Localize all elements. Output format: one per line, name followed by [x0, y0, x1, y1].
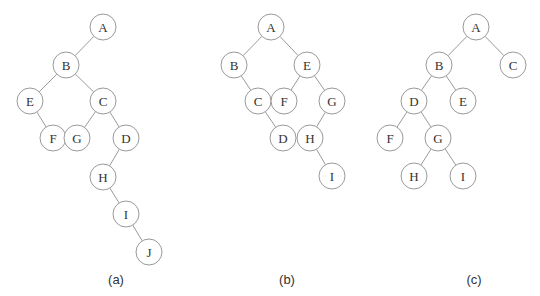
edge-B-C [75, 74, 93, 92]
edge-E-G [314, 76, 324, 91]
node-label: J [146, 245, 151, 260]
edge-D-G [421, 112, 431, 127]
node-label: H [98, 170, 107, 185]
edge-A-C [485, 36, 504, 55]
node-G: G [64, 125, 90, 151]
node-E: E [17, 88, 43, 114]
node-label: A [98, 20, 108, 35]
node-J: J [136, 239, 162, 265]
node-D: D [401, 88, 427, 114]
node-C: C [500, 52, 526, 78]
node-E: E [450, 88, 476, 114]
edge-G-I [445, 149, 456, 165]
node-H: H [90, 164, 116, 190]
node-label: I [124, 207, 128, 222]
node-label: H [409, 169, 418, 184]
edge-A-B [243, 36, 262, 55]
node-label: E [303, 58, 311, 73]
node-label: F [280, 94, 287, 109]
node-label: B [230, 58, 239, 73]
node-H: H [297, 125, 323, 151]
tree-caption: (b) [279, 272, 295, 287]
node-G: G [425, 125, 451, 151]
edge-C-D [110, 112, 119, 127]
edge-H-I [317, 149, 326, 164]
node-E: E [294, 52, 320, 78]
edge-B-D [421, 76, 431, 91]
tree-a: ABECFGDHIJ(a) [17, 14, 162, 287]
edge-A-E [280, 36, 298, 55]
node-B: B [221, 52, 247, 78]
binary-trees-diagram: ABECFGDHIJ(a) ABECFGDHI(b) ABCDEFGHI(c) [0, 0, 540, 296]
edge-B-E [39, 74, 57, 92]
node-label: C [254, 94, 263, 109]
tree-c: ABCDEFGHI(c) [377, 14, 526, 287]
node-I: I [319, 163, 345, 189]
edge-A-B [75, 36, 94, 55]
edge-B-C [241, 76, 251, 90]
node-label: A [471, 20, 481, 35]
node-B: B [426, 52, 452, 78]
node-label: F [49, 131, 56, 146]
edge-A-B [448, 36, 467, 55]
node-label: F [386, 131, 393, 146]
node-label: I [461, 169, 465, 184]
node-label: C [509, 58, 518, 73]
node-G: G [319, 88, 345, 114]
node-label: C [99, 94, 108, 109]
tree-caption: (c) [466, 272, 481, 287]
node-label: E [459, 94, 467, 109]
node-label: G [433, 131, 442, 146]
node-label: B [62, 58, 71, 73]
node-H: H [401, 163, 427, 189]
node-A: A [258, 14, 284, 40]
tree-b: ABECFGDHI(b) [221, 14, 345, 287]
edge-I-J [133, 225, 143, 241]
tree-caption: (a) [108, 272, 124, 287]
edge-D-F [397, 112, 407, 127]
node-label: B [435, 58, 444, 73]
edge-B-E [446, 76, 456, 90]
node-D: D [270, 125, 296, 151]
node-label: I [330, 169, 334, 184]
node-F: F [377, 125, 403, 151]
edge-E-F [37, 112, 46, 127]
node-I: I [450, 163, 476, 189]
node-B: B [53, 52, 79, 78]
node-F: F [271, 88, 297, 114]
edge-G-H [421, 149, 431, 165]
node-label: E [26, 94, 34, 109]
node-label: H [305, 131, 314, 146]
node-A: A [90, 14, 116, 40]
node-label: D [121, 131, 130, 146]
node-label: G [327, 94, 336, 109]
edge-G-H [317, 112, 326, 127]
node-label: D [278, 131, 287, 146]
edge-D-H [110, 149, 120, 166]
node-A: A [463, 14, 489, 40]
node-label: A [266, 20, 276, 35]
node-I: I [113, 201, 139, 227]
edge-C-D [265, 112, 275, 127]
edge-C-G [84, 112, 95, 128]
node-C: C [245, 88, 271, 114]
node-F: F [40, 125, 66, 151]
edge-H-I [110, 188, 119, 203]
node-C: C [90, 88, 116, 114]
node-label: G [72, 131, 81, 146]
node-D: D [113, 125, 139, 151]
edge-E-F [291, 76, 300, 90]
node-label: D [409, 94, 418, 109]
